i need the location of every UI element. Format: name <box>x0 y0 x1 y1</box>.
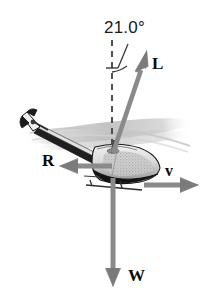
velocity-vector-arrow <box>144 177 199 193</box>
angle-arc-indicator <box>106 44 128 72</box>
velocity-vector-label: v <box>165 163 173 179</box>
weight-vector-arrow <box>105 178 121 287</box>
angle-label: 21.0° <box>104 19 145 36</box>
weight-vector-label: W <box>128 267 145 284</box>
helicopter-force-diagram: 21.0° L R v W <box>0 0 212 303</box>
lift-vector-label: L <box>152 55 163 72</box>
tail-rotor <box>20 109 48 131</box>
resistance-vector-label: R <box>42 152 54 169</box>
diagram-canvas <box>0 0 212 303</box>
